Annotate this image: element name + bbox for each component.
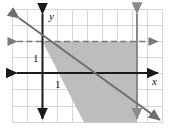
coordinate-plane-svg: y x 1 1 [0,0,173,129]
x-unit-tick-label: 1 [55,78,61,90]
y-axis-label: y [48,10,54,22]
y-unit-tick-label: 1 [33,52,39,64]
graph-figure: y x 1 1 [0,0,173,129]
x-axis-label: x [151,75,157,87]
